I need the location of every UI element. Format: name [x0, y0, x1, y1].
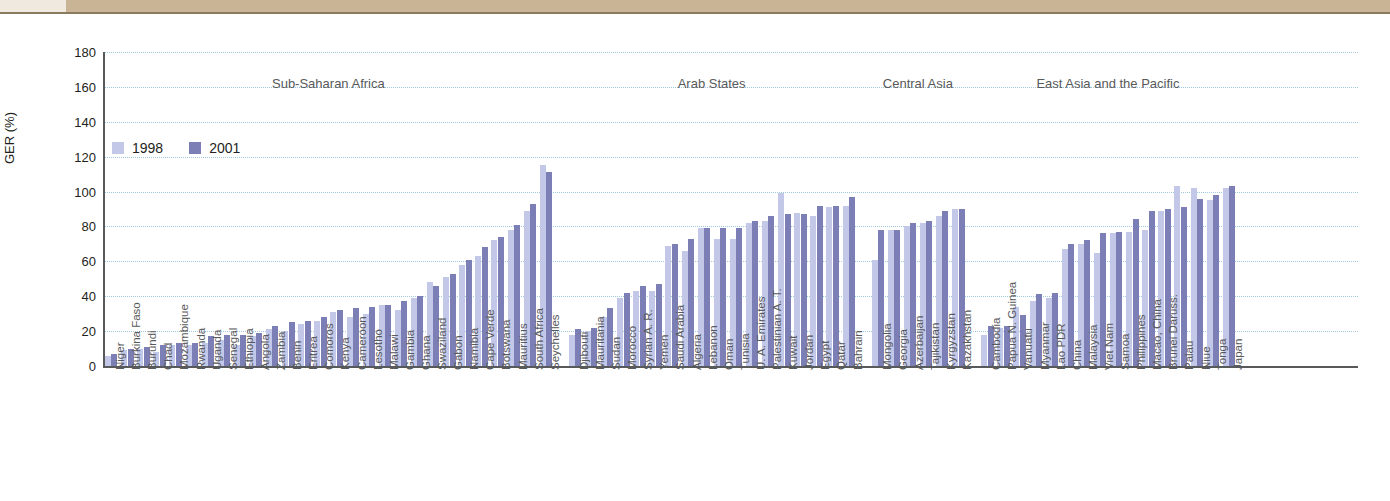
- x-axis-category-label: Syrian A. R.: [643, 309, 655, 370]
- decorative-top-band: [0, 0, 1390, 14]
- legend-swatch-1998: [112, 142, 124, 154]
- x-axis-category-label: Jordan: [804, 335, 816, 370]
- x-axis-category-label: Tajikistan: [930, 323, 942, 370]
- bar: [105, 356, 111, 366]
- x-axis-category-label: Kazakhstan: [962, 310, 974, 370]
- x-axis-category-label: Mongolia: [882, 323, 894, 370]
- x-axis-category-label: Macao, China: [1152, 299, 1164, 370]
- y-axis-tick-labels: 020406080100120140160180: [52, 52, 96, 366]
- y-axis-tick-label: 140: [56, 116, 96, 129]
- region-title: Central Asia: [883, 76, 953, 91]
- x-axis-category-label: Egypt: [820, 341, 832, 370]
- legend-label-1998: 1998: [132, 140, 163, 156]
- x-axis-category-label: Ethiopia: [244, 328, 256, 370]
- x-axis-category-label: Vanuatu: [1023, 328, 1035, 370]
- x-axis-category-label: Benin: [292, 341, 304, 370]
- y-axis-tick-label: 40: [56, 290, 96, 303]
- x-axis-category-label: Rwanda: [196, 328, 208, 370]
- x-axis-category-label: Cape Verde: [485, 309, 497, 370]
- legend-swatch-2001: [189, 142, 201, 154]
- x-axis-category-label: Djibouti: [579, 332, 591, 370]
- x-axis-category-label: Swaziland: [437, 318, 449, 370]
- x-axis-category-label: Oman: [724, 339, 736, 370]
- x-axis-category-label: Viet Nam: [1104, 323, 1116, 370]
- x-axis-category-label: Mauritania: [595, 316, 607, 370]
- y-axis-tick-label: 20: [56, 325, 96, 338]
- x-axis-category-label: Senegal: [228, 328, 240, 370]
- bar: [569, 335, 575, 366]
- x-axis-category-label: Gambia: [405, 330, 417, 370]
- x-axis-category-label: Sudan: [611, 337, 623, 370]
- x-axis-category-label: Seychelles: [550, 314, 562, 370]
- x-axis-category-label: Cambodia: [991, 318, 1003, 370]
- y-axis-tick-label: 160: [56, 81, 96, 94]
- bar: [1207, 200, 1213, 366]
- y-axis-tick-label: 60: [56, 255, 96, 268]
- x-axis-category-label: Kenya: [340, 337, 352, 370]
- x-axis-category-label: Burkina Faso: [131, 302, 143, 370]
- x-axis-category-label: Morocco: [627, 326, 639, 370]
- legend-label-2001: 2001: [209, 140, 240, 156]
- y-axis-title: GER (%): [2, 112, 17, 164]
- x-axis-category-label: Japan: [1233, 339, 1245, 370]
- chart-legend: 1998 2001: [112, 140, 240, 156]
- x-axis-category-label: Philippines: [1136, 314, 1148, 370]
- x-axis-category-label: Eritrea: [308, 336, 320, 370]
- x-axis-category-label: Burundi: [147, 330, 159, 370]
- y-axis-tick-label: 0: [56, 360, 96, 373]
- x-axis-category-label: Lebanon: [708, 325, 720, 370]
- x-axis-category-label: Mauritius: [518, 323, 530, 370]
- x-axis-category-label: Samoa: [1120, 334, 1132, 370]
- x-axis-category-label: U. A. Emirates: [756, 297, 768, 371]
- x-axis-category-label: Kyrgyzstan: [946, 313, 958, 370]
- x-axis-category-label: Qatar: [836, 341, 848, 370]
- x-axis-category-label: Azerbaijan: [914, 316, 926, 370]
- x-axis-category-label: Algeria: [692, 334, 704, 370]
- x-axis-category-label: Tunisia: [740, 333, 752, 370]
- x-axis-category-label: Tonga: [1217, 339, 1229, 370]
- x-axis-category-label: Lao PDR: [1056, 323, 1068, 370]
- x-axis-category-label: Georgia: [898, 329, 910, 370]
- x-axis-category-label: Malaysia: [1088, 325, 1100, 370]
- y-axis-tick-label: 180: [56, 46, 96, 59]
- region-title: Sub-Saharan Africa: [272, 76, 385, 91]
- y-axis-tick-label: 120: [56, 151, 96, 164]
- x-axis-category-label: Malawi: [389, 334, 401, 370]
- bar: [1191, 188, 1197, 366]
- x-axis-category-label: Niger: [115, 343, 127, 370]
- x-axis-category-label: Papua N. Guinea: [1007, 282, 1019, 370]
- x-axis-category-label: Mozambique: [179, 304, 191, 370]
- x-axis-category-label: Kuwait: [788, 335, 800, 370]
- x-axis-category-label: Botswana: [501, 319, 513, 370]
- x-axis-category-label: Yemen: [659, 335, 671, 370]
- x-axis-category-label: Uganda: [212, 330, 224, 370]
- x-axis-category-label: South Africa: [534, 308, 546, 370]
- x-axis-category-label: Comoros: [324, 323, 336, 370]
- chart-container: GER (%) 020406080100120140160180 1998 20…: [0, 14, 1390, 501]
- x-axis-category-label: Myanmar: [1040, 322, 1052, 370]
- x-axis-category-label: Lesotho: [373, 329, 385, 370]
- bar: [981, 335, 987, 366]
- x-axis-category-label: Gabon: [453, 335, 465, 370]
- y-axis-tick-label: 100: [56, 186, 96, 199]
- x-axis-category-label: Niue: [1201, 346, 1213, 370]
- x-axis-category-label: Chad: [163, 343, 175, 371]
- x-axis-category-label: Saudi Arabia: [675, 305, 687, 370]
- legend-item-2001[interactable]: 2001: [189, 140, 240, 156]
- x-axis-category-label: Palau: [1184, 341, 1196, 370]
- x-axis-category-label: Zambia: [276, 332, 288, 370]
- x-axis-category-label: Namibia: [469, 328, 481, 370]
- x-axis-category-label: Ghana: [421, 335, 433, 370]
- bar: [1197, 199, 1203, 366]
- x-axis-category-labels: NigerBurkina FasoBurundiChadMozambiqueRw…: [103, 370, 1356, 500]
- x-axis-category-label: Angola: [260, 334, 272, 370]
- x-axis-category-label: Bahrain: [853, 330, 865, 370]
- x-axis-category-label: Brunei Daruss.: [1168, 294, 1180, 370]
- legend-item-1998[interactable]: 1998: [112, 140, 163, 156]
- y-axis-tick-label: 80: [56, 220, 96, 233]
- bar: [872, 260, 878, 366]
- x-axis-category-label: Palestinian A. T.: [772, 288, 784, 370]
- region-title: Arab States: [678, 76, 746, 91]
- x-axis-category-label: Cameroon: [357, 316, 369, 370]
- x-axis-category-label: China: [1072, 340, 1084, 370]
